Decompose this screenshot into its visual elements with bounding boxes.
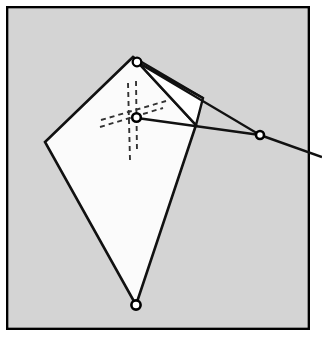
- tow-point-ring-marker: [256, 131, 264, 139]
- bridle-hub-marker: [132, 113, 141, 122]
- apex-fitting-marker: [133, 58, 142, 67]
- kite-diagram: Kite with spars, bridle and flying line: [0, 0, 322, 342]
- tail-fitting-marker: [131, 300, 140, 309]
- figure-page: Kite with spars, bridle and flying line: [0, 0, 322, 342]
